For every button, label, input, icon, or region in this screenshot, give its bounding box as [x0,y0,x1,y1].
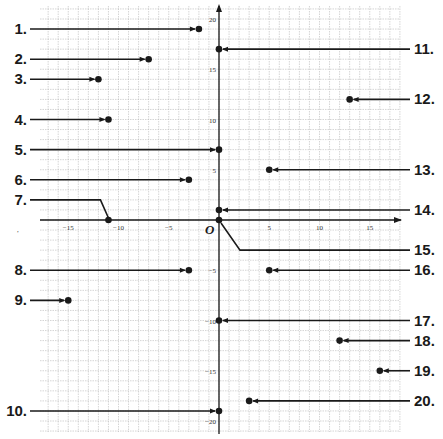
point-item: 6. [14,171,192,188]
y-tick-label: −5 [209,267,217,275]
origin-label: O [205,222,215,237]
point-dot-icon [216,217,223,224]
point-item: 11. [216,40,434,57]
point-item: 16. [266,261,435,278]
point-item: 2. [14,50,151,67]
point-label: 11. [414,40,434,57]
arrowhead-icon [222,207,228,212]
arrowhead-icon [343,338,349,343]
point-item: 7. [14,191,111,223]
stray-mark: , [17,226,19,234]
point-item: 10. [6,402,222,419]
x-tick-label: 10 [316,224,324,232]
arrowhead-icon [89,77,95,82]
point-label: 18. [414,332,435,349]
arrowhead-icon [210,147,216,152]
arrowhead-icon [180,177,186,182]
point-dot-icon [216,207,223,214]
point-label: 3. [14,70,27,87]
arrowhead-icon [190,27,196,32]
x-tick-label: 5 [268,224,272,232]
point-dot-icon [266,166,273,173]
y-axis-arrow-icon [216,4,222,12]
point-label: 12. [414,90,435,107]
point-dot-icon [95,76,102,83]
point-dot-icon [216,46,223,53]
arrowhead-icon [140,57,146,62]
point-dot-icon [346,96,353,103]
arrowhead-icon [272,268,278,273]
arrowhead-icon [59,298,65,303]
point-dot-icon [336,337,343,344]
y-tick-label: 5 [213,167,217,175]
point-label: 8. [14,261,27,278]
leader-line [30,200,108,218]
point-label: 10. [6,402,27,419]
point-label: 5. [14,141,27,158]
point-label: 14. [414,201,435,218]
point-dot-icon [196,26,203,33]
arrowhead-icon [383,368,389,373]
point-label: 13. [414,161,435,178]
point-dot-icon [105,217,112,224]
point-label: 1. [14,20,27,37]
point-item: 15. [216,217,435,258]
arrowhead-icon [353,97,359,102]
point-label: 2. [14,50,27,67]
y-tick-label: 20 [209,16,217,24]
arrowhead-icon [180,268,186,273]
point-label: 15. [414,241,435,258]
point-item: 17. [216,312,435,329]
point-dot-icon [186,267,193,274]
point-item: 4. [14,111,111,128]
point-label: 7. [14,191,27,208]
point-label: 4. [14,111,27,128]
point-item: 9. [14,291,71,308]
x-tick-label: −5 [165,224,173,232]
point-item: 8. [14,261,192,278]
point-label: 6. [14,171,27,188]
point-dot-icon [266,267,273,274]
y-tick-label: 15 [209,66,217,74]
coordinate-grid: O , −15−10−5510152015105−5−10−15−20 1.2.… [0,0,443,439]
x-axis-arrow-icon [394,217,402,223]
point-dot-icon [105,116,112,123]
arrowhead-icon [99,117,105,122]
arrowhead-icon [252,398,258,403]
arrowhead-icon [210,408,216,413]
arrowhead-icon [272,167,278,172]
x-tick-label: −15 [63,224,74,232]
point-item: 13. [266,161,435,178]
point-item: 14. [216,201,435,218]
y-tick-label: −15 [205,368,216,376]
x-tick-label: 15 [366,224,374,232]
point-label: 19. [414,362,435,379]
point-dot-icon [216,408,223,415]
point-dot-icon [246,398,253,405]
point-dot-icon [65,297,72,304]
point-dot-icon [145,56,152,63]
arrowhead-icon [222,47,228,52]
point-item: 18. [336,332,435,349]
point-label: 20. [414,392,435,409]
point-dot-icon [216,317,223,324]
point-dot-icon [186,177,193,184]
point-item: 5. [14,141,222,158]
y-tick-label: −10 [205,318,216,326]
point-item: 20. [246,392,435,409]
y-tick-label: −20 [205,418,216,426]
x-tick-label: −10 [113,224,124,232]
point-dot-icon [377,367,384,374]
y-tick-label: 10 [209,117,217,125]
point-dot-icon [216,146,223,153]
point-item: 19. [377,362,435,379]
point-label: 16. [414,261,435,278]
point-label: 9. [14,291,27,308]
arrowhead-icon [222,318,228,323]
point-label: 17. [414,312,435,329]
